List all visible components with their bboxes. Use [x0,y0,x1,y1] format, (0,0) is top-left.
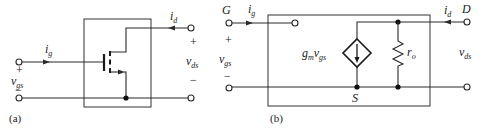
panel-b-id-arrow-icon [444,20,451,25]
panel-a-vgs-plus: + [16,63,23,77]
panel-b-id-label: id [444,3,452,19]
panel-b-source-terminal-left [226,85,232,91]
panel-a: ig + vgs − id + vds − (a) [9,9,198,125]
panel-a-ig-label: ig [45,42,52,58]
panel-b-resistor-ro-icon [393,22,403,87]
panel-b-vds-label: vds [459,45,471,61]
panel-a-id-arrow-icon [168,26,175,31]
panel-a-drain-wire [111,28,188,52]
panel-a-source-terminal-right [188,95,194,101]
panel-b: G ig + vgs − gmvgs ro S id D vds (b) [219,2,471,125]
panel-a-vgs-minus: − [15,83,22,97]
panel-a-source-down-wire [124,72,126,98]
mosfet-small-signal-diagram: ig + vgs − id + vds − (a) [0,0,485,133]
panel-a-vds-minus: − [190,73,197,87]
panel-b-ig-label: ig [248,2,255,18]
panel-b-vgs-minus: − [224,69,231,83]
panel-b-model-box [268,15,430,106]
panel-a-source-arrow-icon [118,70,125,75]
panel-b-ro-label: ro [407,45,416,61]
panel-b-gm-vgs-label: gmvgs [302,46,326,62]
panel-b-ro-bottom-node [395,84,400,89]
panel-b-source-terminal-right [464,84,470,90]
panel-b-drain-label: D [461,2,471,16]
panel-b-caption: (b) [270,112,283,125]
panel-b-ig-arrow-icon [246,21,253,26]
panel-b-vgs-label: vgs [219,52,231,68]
panel-a-vds-plus: + [190,35,197,49]
panel-b-source-node [354,84,359,89]
panel-b-drain-wire [357,22,464,39]
panel-b-drain-terminal [464,19,470,25]
panel-b-gate-terminal [226,20,232,26]
panel-b-vgs-plus: + [225,33,232,47]
panel-b-gate-inner-terminal [292,20,298,26]
panel-a-drain-terminal [188,25,194,31]
panel-a-device-box [84,19,151,107]
panel-a-caption: (a) [9,112,22,125]
panel-a-vds-label: vds [186,54,198,70]
panel-a-id-label: id [170,9,178,25]
panel-b-gate-label: G [222,3,231,17]
panel-a-ig-arrow-icon [43,60,50,65]
panel-a-source-node [123,95,128,100]
panel-b-source-label: S [352,91,358,105]
